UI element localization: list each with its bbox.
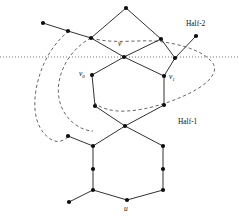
graph-node — [67, 200, 71, 204]
label-v1: v1 — [169, 72, 175, 82]
region-labels: Half-2 Half-1 — [178, 19, 206, 126]
graph-edge — [69, 190, 93, 202]
graph-nodes — [41, 6, 198, 204]
graph-node — [66, 134, 70, 138]
graph-edge — [68, 31, 91, 38]
graph-node — [123, 124, 127, 128]
graph-edge — [95, 106, 125, 126]
label-u: u — [124, 204, 128, 213]
graph-node — [91, 144, 95, 148]
graph-node — [122, 55, 126, 59]
graph-node — [91, 188, 95, 192]
graph-edge — [124, 39, 161, 57]
graph-edge — [91, 8, 126, 38]
graph-edge — [93, 126, 125, 146]
graph-figure: v v0 v1 u Half-2 Half-1 — [0, 0, 239, 216]
graph-node — [66, 29, 70, 33]
graph-edge — [92, 57, 124, 75]
label-half-1: Half-1 — [178, 117, 198, 126]
graph-node — [89, 36, 93, 40]
graph-node — [125, 198, 129, 202]
graph-edge — [68, 136, 93, 146]
graph-edge — [93, 190, 127, 200]
half-1-inner-boundary — [58, 38, 93, 131]
graph-node — [90, 73, 94, 77]
graph-node — [41, 21, 45, 25]
graph-edge — [126, 8, 161, 39]
half-1-boundary — [35, 31, 69, 141]
graph-edge — [175, 36, 196, 58]
label-v: v — [118, 39, 122, 48]
graph-edge — [125, 126, 163, 146]
graph-node — [91, 167, 95, 171]
graph-node — [162, 103, 166, 107]
graph-node — [173, 56, 177, 60]
graph-edge — [43, 23, 68, 31]
graph-edge — [92, 75, 95, 106]
graph-node — [124, 6, 128, 10]
graph-node — [162, 74, 166, 78]
label-half-2: Half-2 — [186, 19, 206, 28]
graph-node — [159, 37, 163, 41]
graph-node — [161, 188, 165, 192]
graph-edge — [161, 39, 175, 58]
graph-edges — [43, 8, 196, 202]
graph-node — [161, 167, 165, 171]
graph-node — [194, 34, 198, 38]
label-v0: v0 — [79, 69, 85, 79]
graph-edge — [124, 57, 164, 76]
graph-node — [93, 104, 97, 108]
graph-canvas: v v0 v1 u Half-2 Half-1 — [0, 0, 239, 216]
graph-edge — [125, 105, 164, 126]
graph-node — [161, 144, 165, 148]
graph-edge — [127, 190, 163, 200]
